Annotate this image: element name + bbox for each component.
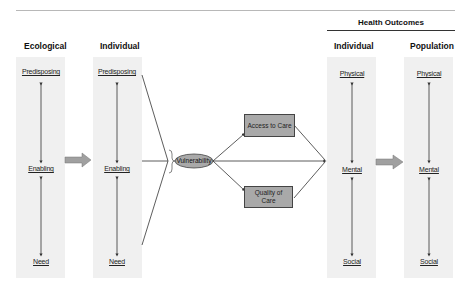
ecological-predisposing: Predisposing [11, 68, 71, 75]
ecological-need: Need [11, 258, 71, 265]
individual-predisposing: Predisposing [87, 68, 147, 75]
individual-need: Need [87, 258, 147, 265]
outcomes-population-social: Social [399, 258, 459, 265]
outcomes-population-mental: Mental [399, 166, 459, 173]
outcomes-individual-physical: Physical [322, 70, 382, 77]
access-to-care-box: Access to Care [244, 114, 295, 137]
quality-of-care-box: Quality of Care [244, 186, 293, 208]
diagram-connectors [0, 0, 470, 294]
ecological-enabling: Enabling [11, 165, 71, 172]
outcomes-individual-mental: Mental [322, 166, 382, 173]
outcomes-population-physical: Physical [399, 70, 459, 77]
vulnerability-node: Vulnerability [174, 157, 214, 164]
outcomes-individual-social: Social [322, 258, 382, 265]
individual-enabling: Enabling [87, 165, 147, 172]
